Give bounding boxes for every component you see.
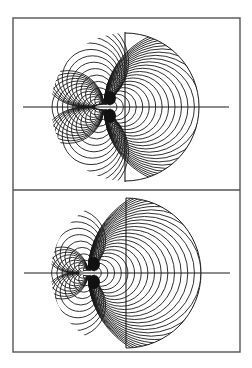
dense-region [88, 257, 100, 271]
contour-figure [0, 0, 252, 368]
bottom-panel-contours [24, 187, 252, 360]
dense-region [104, 91, 116, 105]
top-panel-contours [23, 17, 252, 196]
dense-region [88, 275, 100, 289]
dense-region [104, 109, 116, 123]
